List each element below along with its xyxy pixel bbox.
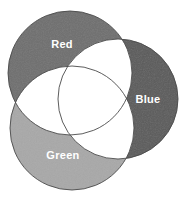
- venn-diagram-figure: Red Blue Green: [0, 0, 192, 199]
- venn-diagram-canvas: Red Blue Green: [0, 0, 192, 199]
- venn-label-blue: Blue: [135, 93, 160, 105]
- venn-label-red: Red: [51, 38, 73, 50]
- region-green-only: [0, 0, 192, 199]
- venn-label-green: Green: [46, 149, 79, 161]
